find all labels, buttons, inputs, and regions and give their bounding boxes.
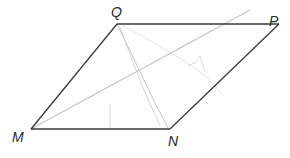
vertex-label-m: M [12,130,24,144]
fold-mark [188,56,205,72]
edge-PN [170,24,279,129]
parallelogram-edges [31,24,279,129]
diagonal-line [31,10,250,129]
vertex-label-p: P [269,14,278,28]
parallelogram-diagram [0,0,290,158]
fold-shading [122,25,222,95]
faint-lines [31,10,250,129]
vertex-label-q: Q [111,5,122,19]
vertex-label-n: N [168,134,178,148]
edge-MQ [31,24,117,129]
